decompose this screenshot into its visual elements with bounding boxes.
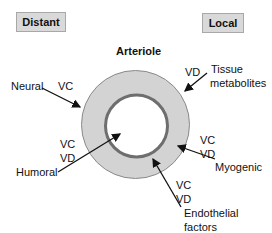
- myogenic-label: Myogenic: [215, 161, 262, 174]
- endothelium-ring: [106, 95, 168, 157]
- endothelial-label-2: factors: [184, 221, 217, 233]
- endothelial-label-1: Endothelial: [184, 207, 238, 220]
- neural-label: Neural: [11, 80, 43, 93]
- myogenic-effect-vc: VC: [200, 134, 215, 147]
- myogenic-effect-vd: VD: [200, 148, 215, 161]
- tissue-effect: VD: [185, 66, 200, 79]
- humoral-effect-vd: VD: [60, 152, 75, 165]
- humoral-effect-vc: VC: [60, 138, 75, 151]
- neural-effect: VC: [58, 80, 73, 93]
- tissue-label-2: metabolites: [210, 77, 266, 90]
- tissue-label-1: Tissue: [211, 63, 243, 76]
- arteriole-diagram: [0, 0, 272, 233]
- endothelial-effect-vc: VC: [176, 179, 191, 192]
- humoral-label: Humoral: [16, 166, 58, 179]
- endothelial-effect-vd: VD: [176, 193, 191, 206]
